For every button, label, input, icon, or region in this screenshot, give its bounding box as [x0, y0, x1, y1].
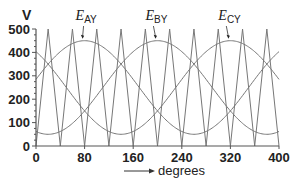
y-tick-label: 300	[8, 68, 30, 83]
series-carrier	[36, 29, 279, 146]
series-e-by	[36, 41, 279, 135]
pwm-chart: 0100200300400500 080160240320400 EAYEBYE…	[0, 0, 298, 186]
x-tick-label: 160	[122, 150, 144, 165]
series-labels: EAYEBYECY	[75, 8, 242, 39]
svg-text:degrees: degrees	[158, 163, 205, 178]
x-tick-label: 80	[77, 150, 91, 165]
y-tick-label: 200	[8, 92, 30, 107]
arrowhead-icon	[149, 169, 155, 174]
series-label-ay: EAY	[75, 8, 97, 25]
leader-line-icon	[83, 26, 84, 37]
y-tick-label: 100	[8, 115, 30, 130]
y-axis: 0100200300400500	[8, 22, 36, 154]
leader-arrow-icon	[227, 35, 230, 39]
series-e-ay	[36, 41, 279, 135]
x-tick-label: 0	[32, 150, 39, 165]
y-tick-label: 0	[23, 139, 30, 154]
plot-curves	[36, 29, 279, 146]
x-tick-label: 320	[220, 150, 242, 165]
series-label-by: EBY	[144, 8, 167, 25]
y-axis-unit: V	[22, 7, 32, 23]
y-tick-label: 400	[8, 45, 30, 60]
x-tick-label: 400	[268, 150, 290, 165]
y-tick-label: 500	[8, 22, 30, 37]
x-axis-label: degrees	[124, 163, 205, 178]
leader-arrow-icon	[154, 35, 157, 39]
series-e-cy	[36, 41, 279, 135]
leader-arrow-icon	[81, 35, 84, 39]
series-label-cy: ECY	[217, 8, 241, 25]
